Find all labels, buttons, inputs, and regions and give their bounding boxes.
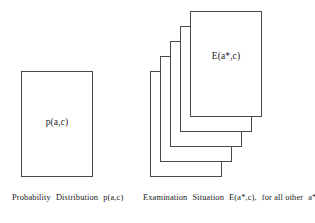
caption-right-lead: Examination xyxy=(143,193,187,202)
figure-canvas: p(a,c) E(a*,c) ProbabilityDistributionp(… xyxy=(0,0,315,223)
examination-situation-sheet-front: E(a*,c) xyxy=(190,11,262,117)
caption-examination-situation: ExaminationSituationE(a*,c),for all othe… xyxy=(143,192,315,203)
caption-left-symbol: p(a,c) xyxy=(103,193,123,202)
caption-right-qualifier: for all other xyxy=(262,193,303,202)
probability-distribution-sheet: p(a,c) xyxy=(21,71,93,177)
caption-probability-distribution: ProbabilityDistributionp(a,c) xyxy=(12,192,123,203)
caption-right-variable: a* xyxy=(308,193,315,202)
examination-situation-sheet-label: E(a*,c) xyxy=(191,52,261,62)
caption-left-middle: Distribution xyxy=(56,193,98,202)
caption-left-lead: Probability xyxy=(12,193,51,202)
caption-right-symbol: E(a*,c), xyxy=(229,193,257,202)
caption-right-middle: Situation xyxy=(192,193,224,202)
probability-distribution-sheet-label: p(a,c) xyxy=(22,118,92,128)
